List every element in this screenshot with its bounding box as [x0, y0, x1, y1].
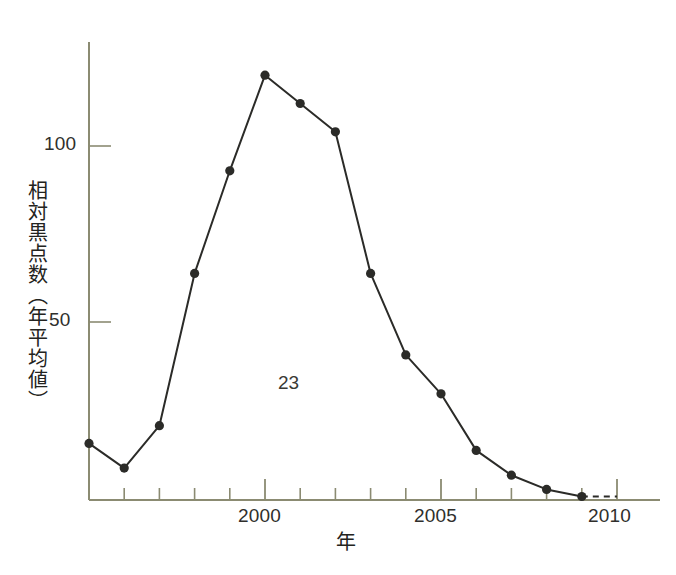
data-point — [190, 269, 199, 278]
x-major-ticks — [265, 479, 617, 500]
data-point — [577, 492, 586, 501]
data-point — [401, 350, 410, 359]
sunspot-line-chart: 100 50 2000 2005 2010 相対黒点数（年平均値） 年 23 — [0, 0, 676, 575]
data-point — [120, 464, 129, 473]
x-tick-label-2005: 2005 — [414, 505, 457, 527]
data-point — [84, 439, 93, 448]
y-tick-label-100: 100 — [44, 133, 76, 155]
data-point — [542, 485, 551, 494]
cycle-number-annotation: 23 — [278, 372, 299, 394]
data-point — [260, 71, 269, 80]
y-tick-label-50: 50 — [49, 309, 71, 331]
data-point — [472, 446, 481, 455]
data-point — [296, 99, 305, 108]
data-point — [507, 471, 516, 480]
x-tick-label-2010: 2010 — [588, 505, 631, 527]
x-tick-label-2000: 2000 — [238, 505, 281, 527]
data-point — [331, 127, 340, 136]
x-axis-title: 年 — [336, 526, 356, 555]
data-line-series — [89, 75, 582, 496]
data-point-markers — [84, 71, 586, 502]
y-axis-title: 相対黒点数（年平均値） — [16, 180, 48, 411]
x-minor-ticks — [124, 488, 582, 500]
data-point — [225, 166, 234, 175]
data-point — [436, 389, 445, 398]
data-point — [366, 269, 375, 278]
chart-plot-area — [0, 0, 676, 575]
data-point — [155, 421, 164, 430]
